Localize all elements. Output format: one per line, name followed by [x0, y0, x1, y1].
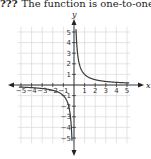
- y-tick-label: 2: [67, 60, 71, 68]
- x-axis-label: x: [146, 81, 151, 90]
- y-axis-arrow-down-icon: [72, 150, 77, 156]
- x-axis-arrow-left-icon: [8, 83, 14, 88]
- x-tick-label: 3: [104, 87, 108, 95]
- function-graph: xy−5−4−3−2−112345−5−4−3−2−112345: [0, 0, 151, 159]
- x-tick-label: 2: [93, 87, 97, 95]
- x-tick-label: 4: [114, 87, 119, 95]
- x-tick-label: 5: [125, 87, 129, 95]
- y-tick-label: 5: [67, 29, 71, 37]
- y-tick-label: 1: [67, 71, 71, 79]
- curve-right-branch: [76, 29, 129, 83]
- y-tick-label: −3: [61, 113, 71, 121]
- y-tick-label: 3: [67, 50, 71, 58]
- y-tick-label: −5: [61, 135, 71, 143]
- y-tick-label: 4: [67, 39, 72, 47]
- y-axis-arrow-icon: [72, 19, 77, 25]
- y-tick-label: −4: [61, 124, 72, 132]
- y-axis-label: y: [71, 10, 77, 19]
- x-tick-label: −5: [16, 87, 26, 95]
- x-axis-arrow-icon: [138, 83, 144, 88]
- x-tick-label: 1: [82, 87, 86, 95]
